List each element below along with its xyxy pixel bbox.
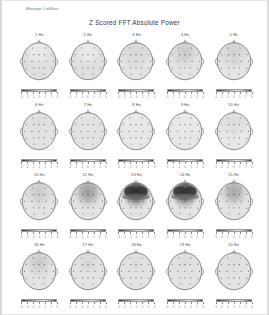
- topomap-panel[interactable]: 3 Hz-3-2-10123: [112, 32, 161, 102]
- topomap-panel[interactable]: 17 Hz-3-2-10123: [64, 242, 113, 312]
- electrode-marker: [192, 131, 193, 132]
- topomap-panel[interactable]: 18 Hz-3-2-10123: [112, 242, 161, 312]
- electrode-marker: [238, 143, 239, 144]
- electrode-marker: [238, 67, 239, 68]
- head-map[interactable]: [163, 248, 207, 298]
- electrode-marker: [136, 277, 137, 278]
- head-map[interactable]: [66, 248, 110, 298]
- head-map[interactable]: [66, 108, 110, 158]
- head-map[interactable]: [212, 38, 256, 88]
- head-map[interactable]: [114, 178, 158, 228]
- head-map[interactable]: [66, 38, 110, 88]
- head-map[interactable]: [114, 248, 158, 298]
- colorbar-tick-label: 2: [196, 235, 198, 239]
- head-map[interactable]: [17, 248, 61, 298]
- topomap-panel[interactable]: 10 Hz-3-2-10123: [209, 102, 258, 172]
- head-map[interactable]: [212, 178, 256, 228]
- colorbar-tick-label: 3: [202, 305, 204, 309]
- electrode-marker: [228, 67, 229, 68]
- colorbar-tick-label: -3: [166, 305, 169, 309]
- electrode-marker: [94, 131, 95, 132]
- head-topography-svg: [212, 248, 256, 298]
- topomap-panel[interactable]: 13 Hz-3-2-10123: [112, 172, 161, 242]
- topomap-panel[interactable]: 9 Hz-3-2-10123: [161, 102, 210, 172]
- head-map[interactable]: [17, 178, 61, 228]
- topomap-panel[interactable]: 20 Hz-3-2-10123: [209, 242, 258, 312]
- electrode-marker: [51, 54, 52, 55]
- electrode-marker: [178, 187, 179, 188]
- topomap-panel[interactable]: 7 Hz-3-2-10123: [64, 102, 113, 172]
- topomap-panel[interactable]: 14 Hz-3-2-10123: [161, 172, 210, 242]
- electrode-marker: [190, 207, 191, 208]
- electrode-marker: [131, 264, 132, 265]
- colorbar: -3-2-10123: [118, 229, 154, 239]
- electrode-marker: [190, 264, 191, 265]
- topomap-panel[interactable]: 12 Hz-3-2-10123: [64, 172, 113, 242]
- colorbar-tick-label: 3: [154, 235, 156, 239]
- frequency-bin-label: 14 Hz: [180, 172, 191, 177]
- electrode-marker: [93, 264, 94, 265]
- electrode-marker: [100, 278, 101, 279]
- electrode-marker: [226, 271, 227, 272]
- electrode-marker: [131, 207, 132, 208]
- head-map[interactable]: [163, 38, 207, 88]
- head-map[interactable]: [66, 178, 110, 228]
- electrode-marker: [220, 194, 221, 195]
- electrode-marker: [246, 124, 247, 125]
- colorbar-tick-label: 0: [39, 305, 41, 309]
- colorbar-tick-label: 0: [87, 235, 89, 239]
- electrode-marker: [81, 47, 82, 48]
- head-map[interactable]: [163, 178, 207, 228]
- head-map[interactable]: [114, 108, 158, 158]
- electrode-marker: [172, 208, 173, 209]
- electrode-marker: [102, 131, 103, 132]
- colorbar-tick-label: 2: [51, 95, 53, 99]
- electrode-marker: [180, 143, 181, 144]
- electrode-marker: [34, 73, 35, 74]
- colorbar-tick-labels: -3-2-10123: [216, 235, 252, 239]
- colorbar-tick-labels: -3-2-10123: [167, 235, 203, 239]
- topomap-panel[interactable]: 5 Hz-3-2-10123: [209, 32, 258, 102]
- head-map[interactable]: [114, 38, 158, 88]
- electrode-marker: [75, 138, 76, 139]
- electrode-marker: [220, 68, 221, 69]
- topomap-panel[interactable]: 8 Hz-3-2-10123: [112, 102, 161, 172]
- topomap-panel[interactable]: 19 Hz-3-2-10123: [161, 242, 210, 312]
- topomap-panel[interactable]: 2 Hz-3-2-10123: [64, 32, 113, 102]
- colorbar-tick-label: -3: [69, 305, 72, 309]
- electrode-marker: [51, 208, 52, 209]
- electrode-marker: [226, 61, 227, 62]
- electrode-marker: [92, 143, 93, 144]
- electrode-marker: [141, 283, 142, 284]
- electrode-marker: [123, 278, 124, 279]
- frequency-bin-label: 5 Hz: [229, 32, 237, 37]
- colorbar-tick-labels: -3-2-10123: [70, 305, 106, 309]
- frequency-bin-label: 13 Hz: [131, 172, 142, 177]
- head-map[interactable]: [163, 108, 207, 158]
- electrode-marker: [53, 131, 54, 132]
- topomap-panel[interactable]: 15 Hz-3-2-10123: [209, 172, 258, 242]
- head-map[interactable]: [17, 108, 61, 158]
- colorbar-tick-labels: -3-2-10123: [118, 235, 154, 239]
- head-map[interactable]: [17, 38, 61, 88]
- topomap-panel[interactable]: 16 Hz-3-2-10123: [15, 242, 64, 312]
- colorbar-tick-label: 1: [45, 95, 47, 99]
- topomap-panel[interactable]: 4 Hz-3-2-10123: [161, 32, 210, 102]
- electrode-marker: [149, 194, 150, 195]
- electrode-marker: [238, 73, 239, 74]
- electrode-marker: [192, 201, 193, 202]
- electrode-marker: [100, 264, 101, 265]
- electrode-marker: [123, 208, 124, 209]
- electrode-marker: [219, 131, 220, 132]
- electrode-marker: [238, 194, 239, 195]
- colorbar-tick-labels: -3-2-10123: [118, 305, 154, 309]
- head-map[interactable]: [212, 248, 256, 298]
- electrode-marker: [191, 257, 192, 258]
- electrode-marker: [220, 208, 221, 209]
- topomap-panel[interactable]: 11 Hz-3-2-10123: [15, 172, 64, 242]
- electrode-marker: [39, 271, 40, 272]
- topomap-panel[interactable]: 6 Hz-3-2-10123: [15, 102, 64, 172]
- colorbar-tick-labels: -3-2-10123: [167, 95, 203, 99]
- head-map[interactable]: [212, 108, 256, 158]
- topomap-panel[interactable]: 1 Hz-3-2-10123: [15, 32, 64, 102]
